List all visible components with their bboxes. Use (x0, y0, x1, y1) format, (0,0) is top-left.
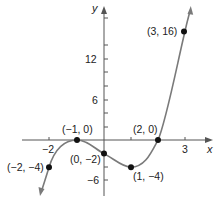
label-2-0: (2, 0) (133, 123, 158, 135)
cubic-graph: y x −2 3 12 6 −6 (−2, −4) (−1, 0) (0, −2… (0, 0, 221, 201)
y-axis-label: y (91, 2, 99, 14)
tick-label-neg2: −2 (42, 143, 54, 155)
tick-label-neg6: −6 (87, 174, 99, 186)
label-0-neg2: (0, −2) (70, 153, 101, 165)
point-neg1-0 (74, 137, 80, 143)
curve-arrow-up-icon (188, 6, 194, 15)
label-neg1-0: (−1, 0) (62, 123, 93, 135)
curve-arrow-down-icon (39, 187, 45, 196)
label-1-neg4: (1, −4) (133, 170, 164, 182)
tick-label-6: 6 (92, 94, 98, 106)
y-axis-arrow-icon (101, 6, 107, 14)
curve (41, 11, 190, 192)
label-3-16: (3, 16) (147, 25, 177, 37)
label-neg2-neg4: (−2, −4) (7, 161, 44, 173)
x-axis-label: x (206, 143, 213, 155)
point-0-neg2 (101, 151, 107, 157)
tick-label-12: 12 (85, 53, 97, 65)
point-neg2-neg4 (46, 164, 52, 170)
tick-label-3: 3 (182, 143, 188, 155)
data-points (46, 29, 187, 171)
point-2-0 (155, 137, 161, 143)
point-3-16 (181, 29, 187, 35)
